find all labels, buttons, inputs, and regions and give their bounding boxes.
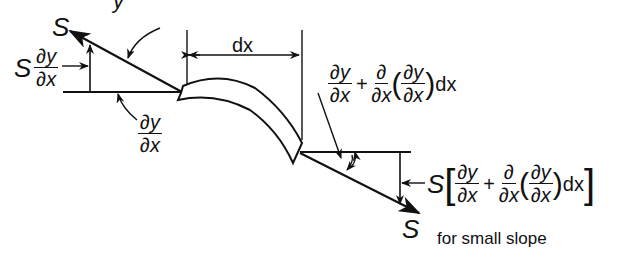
right-bracket: ] <box>584 164 595 204</box>
fraction-denominator: ∂x <box>372 84 392 105</box>
slope-fraction: ∂y ∂x <box>138 112 162 155</box>
plus-sign: + <box>356 74 368 94</box>
fraction-numerator: ∂y <box>455 162 479 184</box>
fraction-numerator: ∂y <box>529 162 553 184</box>
right-slope-label: ∂y ∂x + ∂ ∂x ( ∂y ∂x ) dx <box>328 62 456 105</box>
left-angle-pointer-bottom <box>118 94 137 120</box>
fraction-numerator: ∂y <box>328 62 352 84</box>
right-paren: ) <box>425 69 435 99</box>
fraction-numerator: ∂ <box>375 62 389 84</box>
left-force-triangle <box>62 28 182 120</box>
fraction-numerator: ∂ <box>502 162 516 184</box>
fraction-denominator: ∂x <box>330 84 350 105</box>
dx-text: dx <box>563 174 584 194</box>
inner-slope-fraction: ∂y ∂x <box>401 62 425 105</box>
fraction-numerator: ∂y <box>138 112 162 134</box>
right-paren: ) <box>553 169 563 199</box>
fraction-denominator: ∂x <box>140 134 160 155</box>
fraction-denominator: ∂x <box>499 184 519 205</box>
derivative-operator: ∂ ∂x <box>372 62 392 105</box>
caption: for small slope <box>437 230 547 247</box>
fraction-denominator: ∂x <box>531 184 551 205</box>
slope-fraction: ∂y ∂x <box>328 62 352 105</box>
left-angle-pointer-top <box>128 28 160 58</box>
left-paren: ( <box>519 169 529 199</box>
left-force-label: S <box>52 14 69 40</box>
left-bracket: [ <box>444 164 455 204</box>
right-force-triangle <box>300 93 425 213</box>
left-slope-label: ∂y ∂x <box>138 112 162 155</box>
left-paren: ( <box>391 69 401 99</box>
right-tension-vector <box>300 153 419 213</box>
dx-text: dx <box>232 34 253 56</box>
string-element-segment <box>178 78 302 163</box>
plus-sign: + <box>483 174 495 194</box>
string-element-diagram <box>0 0 618 255</box>
left-vertical-component-label: S ∂y ∂x <box>14 46 58 89</box>
fraction-denominator: ∂x <box>457 184 477 205</box>
fraction-denominator: ∂x <box>403 84 423 105</box>
slope-fraction: ∂y ∂x <box>34 46 58 89</box>
segment-width-label: dx <box>232 35 253 55</box>
dx-text: dx <box>435 74 456 94</box>
derivative-operator: ∂ ∂x <box>499 162 519 205</box>
inner-slope-fraction: ∂y ∂x <box>529 162 553 205</box>
left-tension-vector <box>70 31 182 92</box>
right-force-label: S <box>402 216 419 242</box>
tension-symbol: S <box>427 171 444 197</box>
top-cropped-fragment: y <box>113 0 124 12</box>
right-vertical-component-label: S [ ∂y ∂x + ∂ ∂x ( ∂y ∂x ) dx ] <box>427 162 595 205</box>
fraction-numerator: ∂y <box>401 62 425 84</box>
fraction-denominator: ∂x <box>36 68 56 89</box>
slope-fraction: ∂y ∂x <box>455 162 479 205</box>
tension-symbol: S <box>14 55 31 81</box>
fraction-numerator: ∂y <box>34 46 58 68</box>
